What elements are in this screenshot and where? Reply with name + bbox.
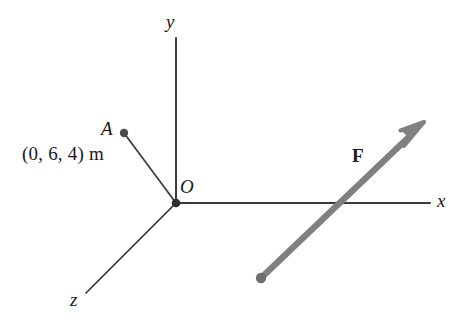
force-vector-shaft bbox=[261, 134, 412, 278]
origin-dot bbox=[172, 199, 181, 208]
x-axis-label: x bbox=[437, 191, 445, 210]
point-a-dot bbox=[120, 129, 128, 137]
y-axis-label: y bbox=[166, 12, 174, 31]
point-a-label: A bbox=[101, 119, 113, 138]
origin-label: O bbox=[180, 177, 194, 196]
force-vector-label: F bbox=[352, 146, 364, 165]
position-vector-oa-line bbox=[124, 133, 176, 203]
point-a-coordinates-label: (0, 6, 4) m bbox=[22, 144, 104, 163]
z-axis-label: z bbox=[70, 290, 77, 309]
force-vector-tail-dot bbox=[256, 273, 266, 283]
z-axis-line bbox=[86, 203, 176, 293]
physics-diagram-figure: y x z A O (0, 6, 4) m F bbox=[0, 0, 464, 323]
